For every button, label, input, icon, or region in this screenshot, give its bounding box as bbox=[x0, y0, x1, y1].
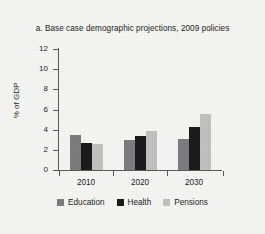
y-tick-label-0: 0 bbox=[14, 165, 48, 174]
bar-education-2010 bbox=[70, 135, 81, 170]
bar-education-2020 bbox=[124, 140, 135, 170]
bar-health-2010 bbox=[81, 143, 92, 170]
y-tick-10 bbox=[53, 69, 58, 70]
legend-swatch-education-icon bbox=[57, 199, 64, 206]
chart-legend: EducationHealthPensions bbox=[0, 198, 265, 207]
legend-label-pensions: Pensions bbox=[174, 198, 208, 207]
legend-label-education: Education bbox=[68, 198, 104, 207]
x-tick-2020 bbox=[113, 171, 114, 176]
x-tick-2010 bbox=[59, 171, 60, 176]
bar-health-2020 bbox=[135, 136, 146, 170]
plot-area bbox=[59, 49, 221, 170]
legend-label-health: Health bbox=[128, 198, 152, 207]
y-tick-8 bbox=[53, 89, 58, 90]
legend-item-health: Health bbox=[117, 198, 152, 207]
x-axis-label-2030: 2030 bbox=[167, 178, 221, 187]
y-tick-label-8: 8 bbox=[14, 84, 48, 93]
x-tick-end bbox=[223, 171, 224, 176]
x-axis-label-2010: 2010 bbox=[59, 178, 113, 187]
chart-title: a. Base case demographic projections, 20… bbox=[0, 24, 265, 33]
y-tick-label-6: 6 bbox=[14, 105, 48, 114]
x-axis-line bbox=[58, 170, 222, 171]
bar-pensions-2010 bbox=[92, 144, 103, 170]
chart-figure: a. Base case demographic projections, 20… bbox=[0, 0, 265, 234]
legend-item-education: Education bbox=[57, 198, 104, 207]
y-tick-4 bbox=[53, 130, 58, 131]
bar-pensions-2030 bbox=[200, 114, 211, 170]
bar-pensions-2020 bbox=[146, 131, 157, 170]
legend-item-pensions: Pensions bbox=[163, 198, 208, 207]
x-axis-label-2020: 2020 bbox=[113, 178, 167, 187]
y-tick-0 bbox=[53, 170, 58, 171]
y-tick-label-4: 4 bbox=[14, 125, 48, 134]
y-tick-label-12: 12 bbox=[14, 44, 48, 53]
x-tick-2030 bbox=[167, 171, 168, 176]
y-tick-label-2: 2 bbox=[14, 145, 48, 154]
legend-swatch-pensions-icon bbox=[163, 199, 170, 206]
bar-education-2030 bbox=[178, 139, 189, 170]
y-tick-label-10: 10 bbox=[14, 64, 48, 73]
bar-health-2030 bbox=[189, 127, 200, 170]
y-tick-2 bbox=[53, 150, 58, 151]
y-tick-6 bbox=[53, 110, 58, 111]
legend-swatch-health-icon bbox=[117, 199, 124, 206]
y-tick-12 bbox=[53, 49, 58, 50]
